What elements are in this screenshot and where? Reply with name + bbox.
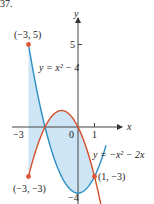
point-label-neg3-neg3: (−3, −3) — [13, 183, 46, 195]
y-tick-label-neg4: −4 — [68, 192, 79, 203]
x-axis-label: x — [126, 121, 132, 132]
point-neg3-neg3 — [26, 174, 31, 179]
curve1-label: y = x² − 4 — [38, 62, 79, 73]
problem-number: 37. — [0, 0, 13, 9]
point-1-neg3 — [92, 174, 97, 179]
y-tick-label-5: 5 — [70, 39, 75, 50]
x-tick-label-neg3: −3 — [13, 129, 24, 140]
point-label-1-neg3: (1, −3) — [98, 171, 125, 183]
x-tick-label-1: 1 — [92, 129, 97, 140]
point-label-neg3-5: (−3, 5) — [14, 29, 41, 41]
curve2-label: y = −x² − 2x — [92, 149, 145, 160]
area-between-curves-figure: 37. y x 5 −4 −3 0 1 (−3, 5) (−3, −3) (1,… — [0, 0, 154, 204]
point-neg3-5 — [26, 42, 31, 47]
x-tick-label-0: 0 — [69, 129, 74, 140]
y-axis-label: y — [73, 8, 79, 19]
